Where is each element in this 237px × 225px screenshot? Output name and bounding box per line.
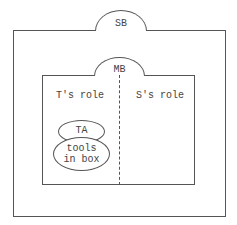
sb-label: SB: [115, 18, 127, 29]
mb-label: MB: [113, 64, 125, 75]
tools-in-box-ellipse: tools in box: [53, 137, 110, 171]
ta-label: TA: [75, 125, 87, 136]
s-role-label: S's role: [136, 90, 184, 101]
t-role-label: T's role: [56, 90, 104, 101]
tools-label-line1: tools: [54, 143, 109, 154]
sb-tab: SB: [95, 10, 147, 31]
tools-label-line2: in box: [54, 154, 109, 165]
dashed-divider: [119, 75, 120, 185]
